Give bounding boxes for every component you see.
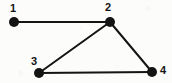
vertex-label-1: 1 bbox=[10, 3, 16, 14]
graph-node-2 bbox=[105, 17, 115, 27]
vertex-label-4: 4 bbox=[160, 65, 166, 76]
node-layer bbox=[9, 17, 157, 78]
graph-node-1 bbox=[9, 17, 19, 27]
graph-canvas bbox=[0, 0, 172, 83]
graph-node-3 bbox=[34, 68, 44, 78]
graph-node-4 bbox=[147, 67, 157, 77]
graph-edge-2-3 bbox=[39, 22, 110, 73]
vertex-label-2: 2 bbox=[105, 2, 111, 13]
graph-figure: 1234 bbox=[0, 0, 172, 83]
vertex-label-3: 3 bbox=[31, 56, 37, 67]
graph-edge-2-4 bbox=[110, 22, 152, 72]
graph-edge-3-4 bbox=[39, 72, 152, 73]
